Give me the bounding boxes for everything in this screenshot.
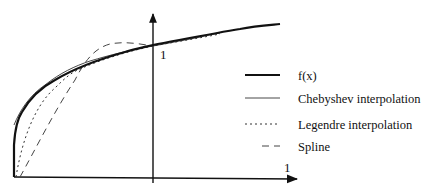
spline-curve [20,43,153,177]
legend: f(x) Chebyshev interpolation Legendre in… [245,69,421,154]
legend-item-fx: f(x) [245,69,317,83]
legend-label: f(x) [298,69,317,83]
x-axis [14,177,297,179]
legend-label: Spline [298,140,330,154]
legend-label: Legendre interpolation [298,118,413,132]
axes: 1 1 [14,14,297,183]
fx-curve [14,24,280,177]
legendre-curve [16,34,220,177]
legend-label: Chebyshev interpolation [298,92,421,106]
y-tick-label: 1 [160,47,167,62]
legend-item-chebyshev: Chebyshev interpolation [245,92,421,106]
interpolation-chart: 1 1 f(x) Chebyshev interpolation Legendr… [0,0,436,195]
legend-item-legendre: Legendre interpolation [245,118,413,132]
plot-curves [14,24,280,177]
x-tick-label: 1 [284,160,291,175]
legend-item-spline: Spline [262,140,330,154]
chebyshev-curve [14,33,220,125]
